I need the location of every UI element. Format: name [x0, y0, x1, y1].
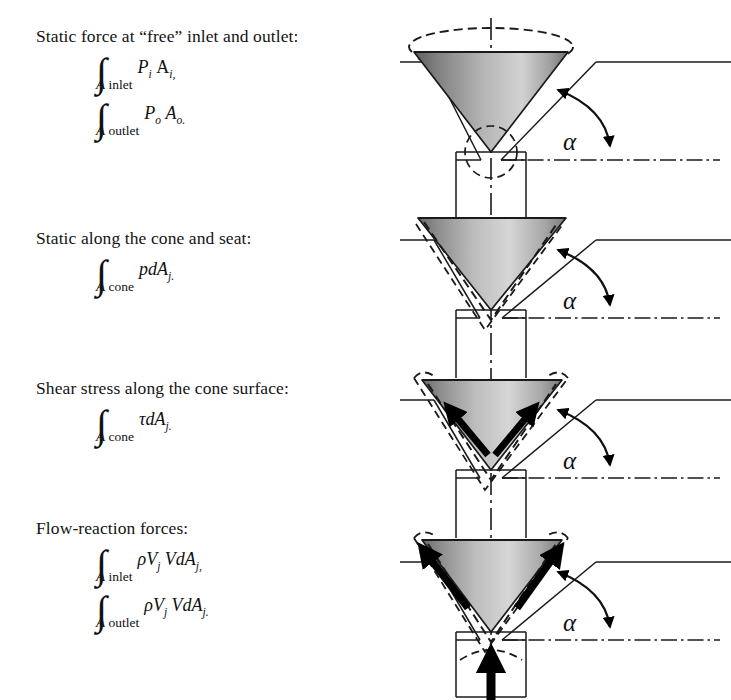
- equation-inlet-flow: ∫A inletρVj VdAj,: [0, 547, 410, 593]
- integrand: pdAj.: [139, 259, 174, 282]
- cone-body-2: [418, 218, 566, 310]
- text-block-static-cone-seat: Static along the cone and seat: ∫A conep…: [0, 228, 410, 303]
- integrand: ρVj VdAj.: [144, 595, 208, 618]
- cone-assembly-2: α: [400, 218, 731, 378]
- cone-assembly-4: α: [400, 532, 731, 700]
- equation-outlet-flow: ∫A outletρVj VdAj.: [0, 593, 410, 639]
- integrand: Po Ao.: [144, 103, 185, 126]
- integrand: ρVj VdAj,: [138, 549, 202, 572]
- integral-limit: A outlet: [96, 614, 139, 631]
- text-block-flow-reaction: Flow-reaction forces: ∫A inletρVj VdAj, …: [0, 518, 410, 639]
- angle-alpha-label-1: α: [563, 128, 577, 155]
- angle-alpha-marker-1: α: [558, 90, 610, 155]
- caption-static-force-free: Static force at “free” inlet and outlet:: [0, 26, 410, 47]
- equation-outlet-static: ∫A outletPo Ao.: [0, 101, 410, 147]
- integral-limit: A inlet: [96, 568, 133, 585]
- equation-inlet-static: ∫A inletPi Ai,: [0, 55, 410, 101]
- equation-cone-static: ∫A conepdAj.: [0, 257, 410, 303]
- cone-body-1: [414, 52, 568, 152]
- integral-limit: A cone: [96, 278, 134, 295]
- cone-assembly-3: α: [400, 372, 731, 538]
- cone-valve-diagram-column: α: [400, 0, 731, 700]
- caption-flow-reaction: Flow-reaction forces:: [0, 518, 410, 539]
- equation-cone-shear: ∫A coneτdAj.: [0, 407, 410, 453]
- angle-alpha-marker-4: α: [558, 572, 610, 636]
- figure-page: Static force at “free” inlet and outlet:…: [0, 0, 731, 700]
- text-block-shear-stress: Shear stress along the cone surface: ∫A …: [0, 378, 410, 453]
- angle-alpha-marker-2: α: [558, 250, 610, 314]
- angle-alpha-label-2: α: [563, 287, 577, 314]
- integrand: Pi Ai,: [138, 57, 176, 80]
- integrand: τdAj.: [139, 409, 172, 432]
- equation-text-column: Static force at “free” inlet and outlet:…: [0, 0, 410, 700]
- integral-limit: A inlet: [96, 76, 133, 93]
- text-block-static-force-free: Static force at “free” inlet and outlet:…: [0, 26, 410, 147]
- angle-alpha-marker-3: α: [558, 410, 610, 474]
- angle-alpha-label-3: α: [563, 447, 577, 474]
- caption-shear-stress: Shear stress along the cone surface:: [0, 378, 410, 399]
- integral-limit: A cone: [96, 428, 134, 445]
- integral-limit: A outlet: [96, 122, 139, 139]
- caption-static-cone-seat: Static along the cone and seat:: [0, 228, 410, 249]
- cone-assembly-1: α: [400, 28, 731, 218]
- angle-alpha-label-4: α: [563, 609, 577, 636]
